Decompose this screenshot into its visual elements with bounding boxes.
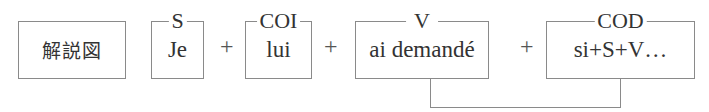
plus-sign-3: + <box>520 34 534 58</box>
verb-label: V <box>406 10 438 32</box>
subject-box: S Je <box>151 21 204 79</box>
cod-label: COD <box>594 10 646 32</box>
coi-box: COI lui <box>245 21 312 79</box>
plus-sign-2: + <box>324 34 338 58</box>
plus-sign-1: + <box>220 34 234 58</box>
verb-text: ai demandé <box>356 36 488 64</box>
subject-text: Je <box>152 36 203 64</box>
cod-text: si+S+V… <box>547 36 694 64</box>
cod-box: COD si+S+V… <box>546 21 695 79</box>
verb-box: V ai demandé <box>355 21 489 79</box>
connector-left-vertical <box>430 78 431 108</box>
connector-bottom <box>430 107 621 108</box>
coi-text: lui <box>246 36 311 64</box>
coi-label: COI <box>257 10 301 32</box>
diagram-title-box: 解説図 <box>18 21 126 79</box>
connector-right-vertical <box>620 78 621 108</box>
subject-label: S <box>168 10 186 32</box>
diagram-title: 解説図 <box>19 37 125 65</box>
